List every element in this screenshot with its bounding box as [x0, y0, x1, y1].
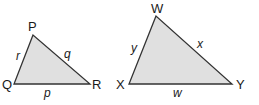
triangle-wxy-shape [129, 16, 232, 84]
vertex-p-label: P [28, 19, 37, 34]
vertex-r-label: R [92, 77, 101, 92]
vertex-w-label: W [151, 1, 164, 16]
triangle-wxy: W X Y y x w [116, 1, 245, 100]
side-q-label: q [64, 47, 71, 61]
triangle-pqr-shape [14, 35, 90, 84]
side-x-label: x [196, 37, 204, 51]
vertex-q-label: Q [2, 77, 12, 92]
triangles-diagram: P Q R r q p W X Y y x w [0, 0, 259, 105]
vertex-y-label: Y [236, 77, 245, 92]
side-y-label: y [130, 41, 138, 55]
side-w-label: w [173, 86, 183, 100]
side-p-label: p [43, 86, 51, 100]
vertex-x-label: X [116, 77, 125, 92]
triangle-pqr: P Q R r q p [2, 19, 101, 100]
side-r-label: r [16, 49, 21, 63]
